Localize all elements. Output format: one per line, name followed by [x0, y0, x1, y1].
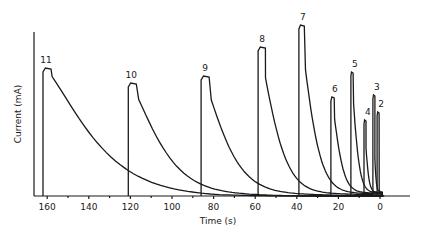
peak-label-9: 9 — [202, 63, 208, 73]
peak-label-10: 10 — [126, 70, 138, 80]
x-tick-label: 0 — [377, 202, 383, 212]
peak-label-7: 7 — [300, 12, 306, 22]
x-tick-label: 20 — [333, 202, 345, 212]
x-tick-label: 60 — [249, 202, 261, 212]
peak-label-3: 3 — [374, 82, 380, 92]
current-curve-2 — [377, 112, 382, 196]
x-axis-title: Time (s) — [199, 216, 237, 226]
x-tick-label: 120 — [122, 202, 139, 212]
x-tick-label: 140 — [80, 202, 97, 212]
x-tick-label: 40 — [291, 202, 303, 212]
peak-label-5: 5 — [352, 59, 358, 69]
peak-label-6: 6 — [332, 84, 338, 94]
peak-label-4: 4 — [365, 107, 371, 117]
peak-label-2: 2 — [378, 99, 384, 109]
peak-label-8: 8 — [259, 34, 265, 44]
peak-label-11: 11 — [40, 55, 51, 65]
current-curves — [43, 25, 384, 196]
x-ticks: 160140120100806040200 — [39, 196, 384, 212]
x-tick-label: 100 — [163, 202, 180, 212]
current-curve-9 — [201, 76, 382, 196]
y-axis-title: Current (mA) — [13, 85, 23, 144]
x-tick-label: 160 — [39, 202, 56, 212]
x-tick-label: 80 — [208, 202, 220, 212]
current-transient-chart: 160140120100806040200 Time (s) Current (… — [0, 0, 426, 234]
